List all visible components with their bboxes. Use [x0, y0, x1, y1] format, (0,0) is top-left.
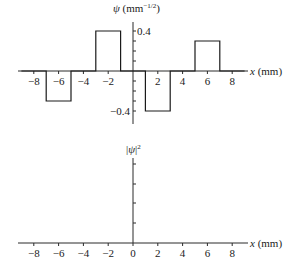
x-axis-label: x (mm) [249, 237, 282, 250]
x-tick-label: −8 [28, 247, 40, 259]
x-tick-label: 0 [130, 247, 136, 259]
x-tick-label: −4 [78, 75, 90, 87]
x-tick-label: 6 [205, 247, 211, 259]
y-tick-label: −0.4 [110, 105, 130, 117]
chart-canvas: 0.4−0.4ψ (mm−1/2)−8−6−4−22468x (mm) |ψ|2… [0, 0, 292, 273]
x-axis-label: x (mm) [249, 65, 282, 78]
x-tick-label: −8 [28, 75, 40, 87]
x-tick-label: 8 [229, 75, 235, 87]
psi-squared-plot: |ψ|2−8−6−4−202468x (mm) [18, 143, 282, 259]
x-tick-label: −4 [78, 247, 90, 259]
x-tick-label: 2 [155, 247, 161, 259]
psi-plot: 0.4−0.4ψ (mm−1/2)−8−6−4−22468x (mm) [18, 2, 282, 124]
x-tick-label: −6 [53, 247, 65, 259]
x-tick-label: −2 [102, 75, 114, 87]
x-tick-label: 4 [180, 75, 186, 87]
x-tick-label: 4 [180, 247, 186, 259]
x-tick-label: −6 [53, 75, 65, 87]
y-tick-label: 0.4 [137, 25, 151, 37]
x-tick-label: 6 [205, 75, 211, 87]
x-tick-label: 8 [229, 247, 235, 259]
y-axis-label: ψ (mm−1/2) [113, 2, 160, 15]
x-tick-label: 2 [155, 75, 161, 87]
y-axis-label: |ψ|2 [126, 143, 141, 155]
figure: 0.4−0.4ψ (mm−1/2)−8−6−4−22468x (mm) |ψ|2… [0, 0, 292, 273]
x-tick-label: −2 [102, 247, 114, 259]
